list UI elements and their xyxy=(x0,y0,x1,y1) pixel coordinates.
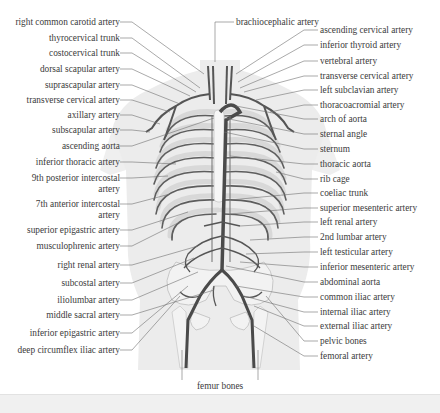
label-middle-sacral-artery: middle sacral artery xyxy=(46,310,120,321)
label-common-iliac-artery: common iliac artery xyxy=(320,292,395,303)
label-ascending-cervical-artery: ascending cervical artery xyxy=(320,25,413,36)
label-2nd-lumbar-artery: 2nd lumbar artery xyxy=(320,232,387,243)
label-external-iliac-artery: external iliac artery xyxy=(320,321,392,332)
label-transverse-cervical-artery-right: transverse cervical artery xyxy=(320,71,413,82)
label-superior-epigastric-artery: superior epigastric artery xyxy=(27,225,120,236)
label-ascending-aorta: ascending aorta xyxy=(62,141,120,152)
arterial-system-diagram: right common carotid artery thyrocervica… xyxy=(0,0,440,380)
label-superior-mesenteric-artery: superior mesenteric artery xyxy=(320,203,417,214)
label-femoral-artery: femoral artery xyxy=(320,351,373,362)
label-inferior-epigastric-artery: inferior epigastric artery xyxy=(30,328,120,339)
label-thyrocervical-trunk: thyrocervical trunk xyxy=(49,33,120,44)
label-left-renal-artery: left renal artery xyxy=(320,217,377,228)
label-7th-anterior-intercostal-artery: 7th anterior intercostal artery xyxy=(36,199,120,221)
label-suprascapular-artery: suprascapular artery xyxy=(45,80,120,91)
label-musculophrenic-artery: musculophrenic artery xyxy=(37,241,120,252)
label-iliolumbar-artery: iliolumbar artery xyxy=(57,295,120,306)
label-inferior-thoracic-artery: inferior thoracic artery xyxy=(36,157,120,168)
label-transverse-cervical-artery-left: transverse cervical artery xyxy=(27,95,120,106)
label-rib-cage: rib cage xyxy=(320,174,350,185)
label-subscapular-artery: subscapular artery xyxy=(52,125,120,136)
label-abdominal-aorta: abdominal aorta xyxy=(320,277,380,288)
label-coeliac-trunk: coeliac trunk xyxy=(320,188,368,199)
label-9th-posterior-intercostal-artery: 9th posterior intercostal artery xyxy=(32,173,120,195)
label-right-common-carotid-artery: right common carotid artery xyxy=(15,17,120,28)
label-subcostal-artery: subcostal artery xyxy=(61,278,120,289)
label-inferior-mesenteric-artery: inferior mesenteric artery xyxy=(320,262,414,273)
label-right-renal-artery: right renal artery xyxy=(58,260,120,271)
label-costocervical-trunk: costocervical trunk xyxy=(49,48,120,59)
label-sternal-angle: sternal angle xyxy=(320,129,367,140)
bottom-bar xyxy=(0,394,440,413)
label-thoracoacromial-artery: thoracoacromial artery xyxy=(320,100,404,111)
label-left-testicular-artery: left testicular artery xyxy=(320,247,393,258)
label-left-subclavian-artery: left subclavian artery xyxy=(320,85,398,96)
label-arch-of-aorta: arch of aorta xyxy=(320,114,367,125)
label-deep-circumflex-iliac-artery: deep circumflex iliac artery xyxy=(18,345,120,356)
label-internal-iliac-artery: internal iliac artery xyxy=(320,307,391,318)
label-vertebral-artery: vertebral artery xyxy=(320,56,377,67)
label-pelvic-bones: pelvic bones xyxy=(320,336,367,347)
label-brachiocephalic-artery: brachiocephalic artery xyxy=(236,17,319,28)
label-thoracic-aorta: thoracic aorta xyxy=(320,159,371,170)
body-silhouette xyxy=(100,60,340,370)
label-dorsal-scapular-artery: dorsal scapular artery xyxy=(40,64,120,75)
label-inferior-thyroid-artery: inferior thyroid artery xyxy=(320,40,401,51)
label-sternum: sternum xyxy=(320,144,350,155)
label-femur-bones: femur bones xyxy=(197,381,243,392)
label-axillary-artery: axillary artery xyxy=(68,110,120,121)
